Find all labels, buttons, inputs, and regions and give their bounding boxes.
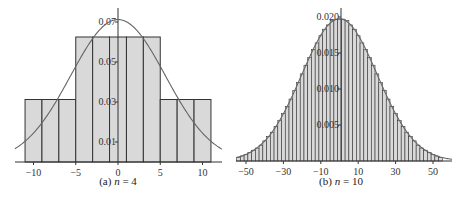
- x-tick-label: 5: [158, 167, 163, 178]
- histogram-bar: [397, 121, 401, 161]
- x-tick-label: 30: [391, 166, 401, 177]
- histogram-bar: [405, 132, 409, 161]
- histogram-bar: [315, 43, 319, 161]
- caption-b: (b) n = 10: [319, 175, 363, 188]
- histogram-bar: [255, 148, 259, 161]
- histogram-bar: [364, 49, 368, 161]
- histogram-bar: [259, 145, 263, 161]
- histogram-bar: [282, 113, 286, 161]
- histogram-bar: [416, 145, 420, 161]
- histogram-bar: [360, 43, 364, 161]
- histogram-bar: [371, 65, 375, 161]
- histogram-bar: [285, 106, 289, 161]
- histogram-bar: [375, 74, 379, 161]
- histogram-bar: [383, 90, 387, 161]
- histogram-bar: [42, 100, 59, 163]
- y-tick-label: 0.01: [99, 136, 117, 147]
- histogram-bar: [278, 121, 282, 161]
- histogram-bar: [368, 57, 372, 161]
- histogram-bar: [177, 100, 194, 163]
- histogram-bar: [252, 150, 256, 161]
- histogram-bar: [267, 137, 271, 161]
- histogram-bar: [420, 148, 424, 161]
- x-tick-label: −30: [276, 166, 292, 177]
- histogram-bar: [296, 83, 300, 161]
- histogram-bar: [274, 126, 278, 161]
- histogram-bar: [424, 150, 428, 161]
- x-tick-label: −5: [70, 167, 81, 178]
- chart-panel-a: −10−505100.010.030.050.07: [15, 8, 222, 178]
- y-tick-label: 0.05: [99, 56, 117, 67]
- histogram-bar: [353, 29, 357, 161]
- histogram-bar: [401, 126, 405, 161]
- y-tick-label: 0.07: [99, 16, 117, 27]
- histogram-bar: [341, 19, 345, 161]
- y-tick-label: 0.03: [99, 96, 117, 107]
- x-tick-label: 50: [428, 166, 438, 177]
- histogram-bar: [25, 100, 42, 163]
- histogram-bar: [356, 36, 360, 161]
- histogram-bar: [394, 113, 398, 161]
- x-tick-label: −50: [238, 166, 254, 177]
- caption-a: (a) n = 4: [99, 175, 137, 188]
- histogram-bar: [293, 90, 297, 161]
- histogram-bar: [386, 99, 390, 161]
- histogram-bar: [59, 100, 76, 163]
- histogram-bar: [289, 99, 293, 161]
- histogram-bar: [263, 141, 267, 161]
- histogram-bar: [126, 37, 143, 162]
- chart-panel-b: −50−30−101030500.0050.0100.0150.020: [236, 8, 452, 177]
- y-tick-label: 0.020: [317, 11, 340, 22]
- histogram-bar: [300, 74, 304, 161]
- histogram-bar: [439, 157, 443, 161]
- histogram-bar: [304, 65, 308, 161]
- histogram-bar: [379, 83, 383, 161]
- histogram-bar: [76, 37, 93, 162]
- histogram-bar: [143, 37, 160, 162]
- histogram-bar: [160, 100, 177, 163]
- histogram-bar: [412, 141, 416, 161]
- x-tick-label: 10: [198, 167, 208, 178]
- y-tick-label: 0.010: [317, 83, 340, 94]
- histogram-figure: −10−505100.010.030.050.07 −50−30−1010305…: [0, 0, 460, 205]
- histogram-bar: [345, 21, 349, 161]
- y-tick-label: 0.005: [317, 119, 340, 130]
- histogram-bar: [349, 25, 353, 161]
- x-tick-label: −10: [26, 167, 42, 178]
- histogram-bar: [311, 49, 315, 161]
- histogram-bar: [390, 106, 394, 161]
- y-tick-label: 0.015: [317, 47, 340, 58]
- histogram-bar: [237, 157, 241, 161]
- histogram-bar: [194, 100, 211, 163]
- histogram-bar: [308, 57, 312, 161]
- histogram-bar: [409, 137, 413, 161]
- histogram-bar: [270, 132, 274, 161]
